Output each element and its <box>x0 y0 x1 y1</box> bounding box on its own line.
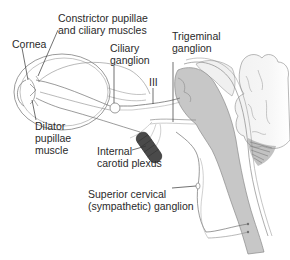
label-trigeminal-ganglion: Trigeminal ganglion <box>172 30 221 54</box>
label-superior-cervical-ganglion: Superior cervical (sympathetic) ganglion <box>88 188 194 212</box>
label-constrictor-pupillae: Constrictor pupillae and ciliary muscles <box>58 12 148 36</box>
parasympathetic-pathway <box>36 62 180 113</box>
pupil-innervation-diagram: Constrictor pupillae and ciliary muscles… <box>0 0 290 260</box>
label-oculomotor-nerve: III <box>149 76 158 88</box>
label-internal-carotid-plexus: Internal carotid plexus <box>97 145 162 169</box>
label-cornea: Cornea <box>12 38 46 50</box>
label-dilator-pupillae: Dilator pupillae muscle <box>35 120 71 156</box>
label-ciliary-ganglion: Ciliary ganglion <box>110 42 150 66</box>
